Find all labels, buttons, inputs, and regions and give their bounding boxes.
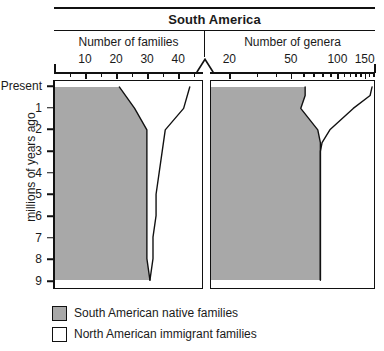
y-tick-8 (47, 259, 54, 261)
legend-item-immigrant: North American immigrant families (52, 324, 257, 345)
x-tick-genera-50 (291, 72, 293, 79)
x-tick-genera-40 (276, 72, 278, 77)
x-tick-families-30 (147, 72, 149, 79)
page-title: South America (54, 11, 375, 28)
x-tick-families-20 (116, 72, 118, 79)
x-tick-genera-130 (355, 72, 357, 77)
x-tick-families-40 (178, 72, 180, 79)
x-tick-label-genera-150: 150 (355, 52, 375, 67)
x-tick-genera-20 (229, 72, 231, 79)
y-tick-4 (47, 172, 54, 174)
x-tick-label-genera-100: 100 (327, 52, 347, 67)
area-native-genera (211, 87, 320, 280)
legend-label-immigrant: North American immigrant families (74, 327, 257, 342)
plot-svg-families (55, 81, 202, 288)
legend-item-native: South American native families (52, 303, 257, 324)
x-tick-genera-160 (369, 72, 371, 77)
title-rule-bottom (54, 30, 375, 31)
legend: South American native families North Ame… (52, 303, 257, 345)
x-axis-cap-left (54, 64, 56, 73)
legend-label-native: South American native families (74, 306, 238, 321)
x-tick-families-10 (85, 72, 87, 79)
y-tick-present (47, 85, 54, 87)
x-tick-label-genera-20: 20 (223, 52, 236, 67)
x-tick-label-families-10: 10 (78, 52, 91, 67)
x-tick-families-35 (163, 72, 165, 77)
y-axis-title: millions of years ago (24, 72, 38, 262)
y-tick-6 (47, 215, 54, 217)
panel-divider (204, 31, 205, 57)
y-tick-3 (47, 150, 54, 152)
panel-header-families: Number of families (54, 34, 203, 50)
x-tick-genera-70 (313, 72, 315, 77)
panel-header-genera: Number of genera (210, 34, 375, 50)
x-tick-genera-80 (322, 72, 324, 77)
y-tick-label-9: 9 (35, 275, 42, 288)
plot-svg-genera (211, 81, 374, 288)
x-axis-tick-labels-genera: 2050100150 (210, 52, 375, 67)
y-tick-5 (47, 194, 54, 196)
x-tick-genera-170 (373, 72, 375, 77)
title-rule-top (54, 7, 375, 9)
plot-area-families (54, 80, 203, 289)
x-tick-genera-140 (360, 72, 362, 77)
x-tick-label-families-30: 30 (140, 52, 153, 67)
x-tick-genera-90 (330, 72, 332, 77)
y-tick-9 (47, 280, 54, 282)
x-tick-genera-100 (337, 72, 339, 79)
x-tick-families-45 (194, 72, 196, 77)
x-tick-families-5 (70, 72, 72, 77)
x-tick-genera-110 (344, 72, 346, 77)
x-tick-families-15 (101, 72, 103, 77)
legend-swatch-immigrant (52, 327, 67, 342)
chart-figure: South America Number of families Number … (0, 0, 384, 351)
y-tick-1 (47, 107, 54, 109)
x-tick-label-families-40: 40 (171, 52, 184, 67)
area-native-families (55, 87, 150, 280)
x-axis-tick-labels-families: 10203040 (54, 52, 203, 67)
x-tick-genera-60 (303, 72, 305, 77)
x-tick-genera-120 (350, 72, 352, 77)
x-tick-genera-30 (257, 72, 259, 77)
x-axis-line-families (54, 72, 203, 74)
x-tick-families-25 (132, 72, 134, 77)
x-tick-label-genera-50: 50 (284, 52, 297, 67)
x-tick-label-families-20: 20 (109, 52, 122, 67)
y-tick-2 (47, 129, 54, 131)
y-tick-7 (47, 237, 54, 239)
plot-area-genera (210, 80, 375, 289)
legend-swatch-native (52, 306, 67, 321)
x-tick-genera-150 (365, 72, 367, 79)
